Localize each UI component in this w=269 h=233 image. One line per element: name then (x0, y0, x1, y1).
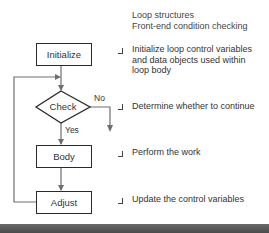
body-note: Perform the work (132, 147, 201, 158)
check-node: Check (36, 101, 90, 112)
body-label: Body (53, 151, 75, 162)
adjust-note: Update the control variables (132, 194, 244, 205)
initialize-note: Initialize loop control variables and da… (132, 44, 252, 76)
diagram-title: Loop structures Front-end condition chec… (132, 10, 248, 32)
bracket-icon (118, 104, 123, 110)
adjust-node: Adjust (36, 191, 92, 214)
bracket-icon (118, 198, 123, 204)
bottom-border-band (0, 224, 269, 233)
initialize-label: Initialize (47, 49, 81, 60)
title-line-2: Front-end condition checking (132, 21, 248, 32)
initialize-node: Initialize (36, 43, 92, 66)
initialize-note-line-3: loop body (132, 65, 252, 76)
bracket-icon (118, 151, 123, 157)
adjust-label: Adjust (51, 197, 77, 208)
no-edge-label: No (94, 93, 105, 103)
check-note: Determine whether to continue (132, 101, 255, 112)
initialize-note-line-2: and data objects used within (132, 55, 252, 66)
bracket-icon (118, 48, 123, 54)
initialize-note-line-1: Initialize loop control variables (132, 44, 252, 55)
check-label: Check (50, 101, 77, 112)
body-node: Body (36, 145, 92, 168)
yes-edge-label: Yes (65, 125, 79, 135)
title-line-1: Loop structures (132, 10, 248, 21)
